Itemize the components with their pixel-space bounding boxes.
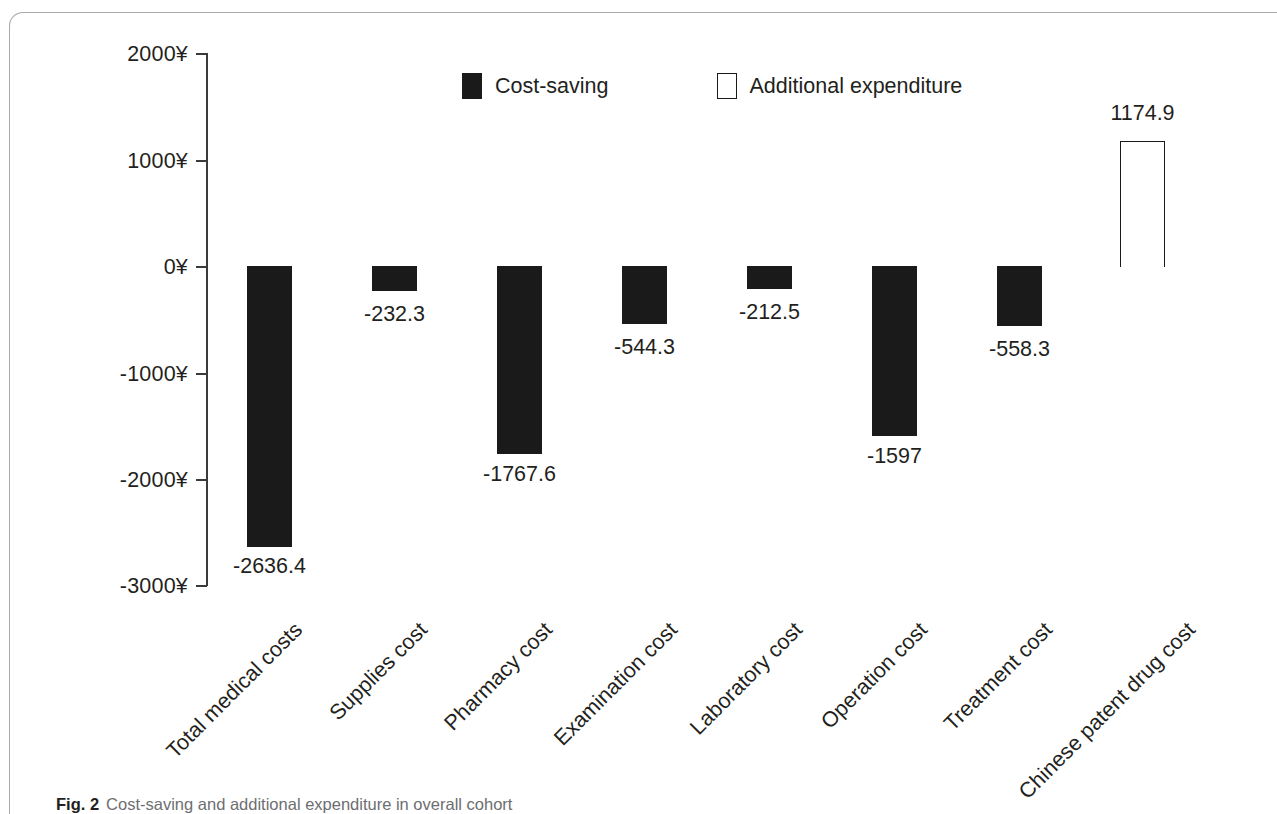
figure-frame: 2000¥ 1000¥ 0¥ -1000¥ -2000¥ -3000¥ Cost…: [9, 12, 1277, 814]
figure-caption: Fig. 2Cost-saving and additional expendi…: [56, 795, 512, 814]
figure-caption-text: Cost-saving and additional expenditure i…: [106, 795, 512, 813]
figure-number: Fig. 2: [56, 795, 99, 813]
chart-area: 2000¥ 1000¥ 0¥ -1000¥ -2000¥ -3000¥ Cost…: [10, 13, 1277, 783]
x-axis-labels: Total medical costs Supplies cost Pharma…: [10, 13, 1277, 783]
